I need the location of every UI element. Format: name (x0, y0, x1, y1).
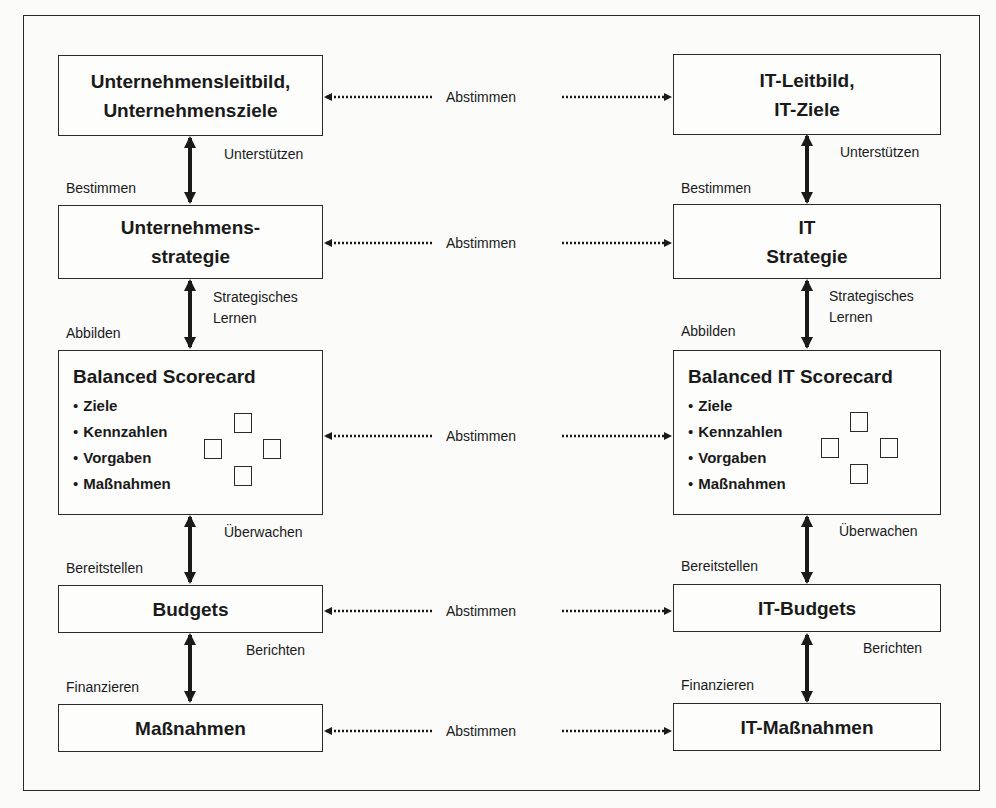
scorecard-item: Maßnahmen (688, 471, 786, 497)
box-label: Unternehmensleitbild, (91, 67, 291, 96)
perspective-square-icon (850, 412, 868, 432)
label-lernen: Lernen (213, 310, 257, 327)
box-it-strategy: IT Strategie (673, 204, 941, 279)
box-title: Balanced Scorecard (73, 365, 256, 389)
box-label: Budgets (153, 595, 229, 624)
box-label: strategie (151, 242, 230, 271)
label-lernen: Lernen (829, 309, 873, 326)
box-label: IT-Maßnahmen (740, 713, 873, 742)
label-abstimmen-goals: Abstimmen (446, 89, 516, 106)
label-abstimmen-strategy: Abstimmen (446, 235, 516, 252)
label-abbilden: Abbilden (681, 323, 736, 340)
box-measures: Maßnahmen (58, 704, 323, 752)
label-bereitstellen: Bereitstellen (681, 558, 758, 575)
label-finanzieren: Finanzieren (681, 677, 754, 694)
perspective-square-icon (263, 439, 281, 459)
box-balanced-it-scorecard: Balanced IT Scorecard Ziele Kennzahlen V… (673, 350, 941, 515)
scorecard-item: Kennzahlen (73, 419, 171, 445)
box-label: IT-Budgets (758, 594, 856, 623)
label-unterstuetzen: Unterstützen (840, 144, 919, 161)
perspective-square-icon (204, 439, 222, 459)
perspective-square-icon (880, 438, 898, 458)
label-bestimmen: Bestimmen (66, 180, 136, 197)
box-label: Unternehmens- (121, 213, 260, 242)
label-finanzieren: Finanzieren (66, 679, 139, 696)
perspective-square-icon (821, 438, 839, 458)
scorecard-item: Vorgaben (688, 445, 786, 471)
perspective-square-icon (234, 413, 252, 433)
label-bereitstellen: Bereitstellen (66, 560, 143, 577)
box-label: IT-Leitbild, (760, 66, 855, 95)
perspective-square-icon (234, 466, 252, 486)
scorecard-items: Ziele Kennzahlen Vorgaben Maßnahmen (73, 393, 171, 497)
box-label: IT (799, 213, 816, 242)
scorecard-item: Ziele (73, 393, 171, 419)
box-corporate-strategy: Unternehmens- strategie (58, 205, 323, 279)
scorecard-item: Maßnahmen (73, 471, 171, 497)
box-label: Maßnahmen (135, 714, 246, 743)
label-bestimmen: Bestimmen (681, 180, 751, 197)
scorecard-items: Ziele Kennzahlen Vorgaben Maßnahmen (688, 393, 786, 497)
scorecard-item: Vorgaben (73, 445, 171, 471)
box-it-measures: IT-Maßnahmen (673, 703, 941, 751)
box-title: Balanced IT Scorecard (688, 365, 893, 389)
label-strategisches: Strategisches (213, 289, 298, 306)
box-budgets: Budgets (58, 585, 323, 633)
label-abbilden: Abbilden (66, 325, 121, 342)
box-it-vision-goals: IT-Leitbild, IT-Ziele (673, 54, 941, 135)
label-ueberwachen: Überwachen (224, 524, 303, 541)
label-strategisches: Strategisches (829, 288, 914, 305)
box-label: Unternehmensziele (103, 96, 277, 125)
box-it-budgets: IT-Budgets (673, 584, 941, 632)
label-ueberwachen: Überwachen (839, 523, 918, 540)
label-abstimmen-measures: Abstimmen (446, 723, 516, 740)
label-unterstuetzen: Unterstützen (224, 146, 303, 163)
box-corporate-vision-goals: Unternehmensleitbild, Unternehmensziele (58, 55, 323, 136)
perspective-square-icon (850, 464, 868, 484)
label-abstimmen-budgets: Abstimmen (446, 603, 516, 620)
label-berichten: Berichten (246, 642, 305, 659)
scorecard-item: Kennzahlen (688, 419, 786, 445)
box-balanced-scorecard: Balanced Scorecard Ziele Kennzahlen Vorg… (58, 350, 323, 515)
box-label: IT-Ziele (774, 95, 839, 124)
label-abstimmen-scorecard: Abstimmen (446, 428, 516, 445)
label-berichten: Berichten (863, 640, 922, 657)
box-label: Strategie (766, 242, 847, 271)
scorecard-item: Ziele (688, 393, 786, 419)
